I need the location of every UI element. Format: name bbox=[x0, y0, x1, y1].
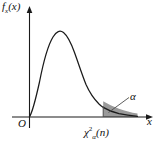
x-axis-label: x bbox=[147, 116, 152, 127]
density-curve bbox=[30, 31, 138, 117]
critical-value-superscript: 2 bbox=[89, 125, 93, 133]
y-axis-arrowhead bbox=[27, 6, 33, 13]
critical-value-argument: (n) bbox=[96, 126, 109, 138]
origin-label: O bbox=[18, 118, 26, 129]
y-axis-label-argument: (x) bbox=[8, 0, 20, 12]
y-axis-label: fx(x) bbox=[2, 1, 20, 15]
alpha-annotation-label: α bbox=[130, 91, 136, 102]
chi-square-distribution-figure: fx(x) x O χ2α(n) α bbox=[0, 0, 158, 150]
critical-value-label: χ2α(n) bbox=[84, 126, 109, 141]
